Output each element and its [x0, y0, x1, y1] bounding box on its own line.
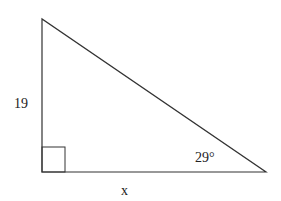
triangle-shape: [42, 19, 266, 172]
right-angle-marker: [42, 147, 65, 172]
angle-label: 29°: [195, 150, 215, 165]
triangle-diagram: 19 29° x: [0, 0, 281, 201]
horizontal-side-label: x: [121, 183, 128, 198]
vertical-side-label: 19: [14, 96, 28, 111]
